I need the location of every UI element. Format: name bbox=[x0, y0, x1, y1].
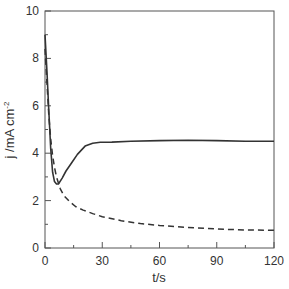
axis-ticks bbox=[45, 11, 274, 248]
x-tick-label: 60 bbox=[153, 254, 167, 268]
data-series bbox=[45, 35, 274, 231]
y-tick-labels: 0246810 bbox=[26, 4, 40, 255]
x-tick-label: 90 bbox=[210, 254, 224, 268]
x-tick-label: 0 bbox=[42, 254, 49, 268]
y-tick-label: 2 bbox=[32, 194, 39, 208]
y-tick-label: 4 bbox=[32, 146, 39, 160]
plot-frame bbox=[45, 11, 274, 248]
chart: 0306090120 0246810 t/s j /mA cm-2 bbox=[0, 0, 289, 289]
y-axis-label: j /mA cm-2 bbox=[2, 101, 17, 160]
y-axis-label-superscript: -2 bbox=[2, 101, 11, 109]
x-tick-label: 120 bbox=[264, 254, 284, 268]
y-tick-label: 8 bbox=[32, 51, 39, 65]
series-solid-line bbox=[45, 35, 274, 184]
x-tick-label: 30 bbox=[96, 254, 110, 268]
series-dashed-line bbox=[45, 49, 274, 230]
y-tick-label: 10 bbox=[26, 4, 40, 18]
y-tick-label: 0 bbox=[32, 241, 39, 255]
x-axis-label: t/s bbox=[152, 270, 166, 285]
x-tick-labels: 0306090120 bbox=[42, 254, 285, 268]
y-tick-label: 6 bbox=[32, 99, 39, 113]
plot-border bbox=[45, 11, 274, 248]
y-axis-label-text: j /mA cm bbox=[2, 109, 17, 160]
